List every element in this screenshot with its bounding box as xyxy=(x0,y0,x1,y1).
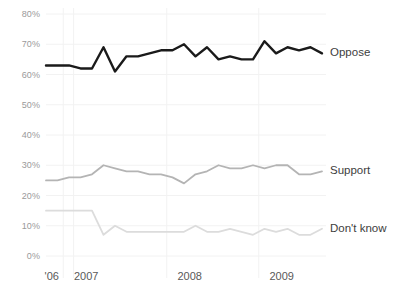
chart-plot-area xyxy=(0,0,406,297)
line-chart: 0%10%20%30%40%50%60%70%80% '062007200820… xyxy=(0,0,406,297)
series-line-don-t-know xyxy=(46,211,322,235)
y-axis-tick-label: 30% xyxy=(22,160,40,170)
series-line-support xyxy=(46,165,322,183)
vertical-gridlines xyxy=(63,8,259,278)
y-axis-tick-label: 50% xyxy=(22,100,40,110)
x-axis-tick-label: 2008 xyxy=(160,270,220,282)
series-lines xyxy=(46,41,322,235)
series-line-oppose xyxy=(46,41,322,71)
y-axis-tick-label: 80% xyxy=(22,9,40,19)
y-axis-tick-label: 10% xyxy=(22,221,40,231)
series-label-oppose: Oppose xyxy=(330,46,370,59)
y-axis-tick-label: 60% xyxy=(22,70,40,80)
y-axis-tick-label: 70% xyxy=(22,39,40,49)
y-axis-tick-label: 0% xyxy=(27,251,40,261)
series-label-support: Support xyxy=(330,164,370,177)
y-axis-tick-label: 40% xyxy=(22,130,40,140)
series-label-don-t-know: Don't know xyxy=(330,222,387,235)
x-axis-tick-label: 2009 xyxy=(252,270,312,282)
y-axis-tick-label: 20% xyxy=(22,191,40,201)
x-axis-tick-label: 2007 xyxy=(56,270,116,282)
